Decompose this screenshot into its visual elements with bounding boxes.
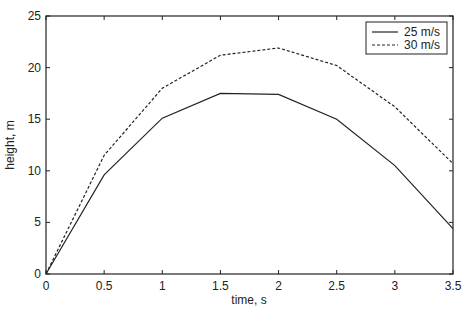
y-tick-label: 25 <box>28 9 42 23</box>
line-chart: 00.511.522.533.5 0510152025 time, s heig… <box>0 0 472 312</box>
y-tick-label: 15 <box>28 112 42 126</box>
x-axis-label: time, s <box>231 293 266 307</box>
y-tick-label: 20 <box>28 61 42 75</box>
y-tick-label: 5 <box>34 215 41 229</box>
x-tick-label: 2 <box>275 279 282 293</box>
x-tick-label: 1.5 <box>212 279 229 293</box>
legend-label-30: 30 m/s <box>404 38 440 52</box>
legend: 25 m/s 30 m/s <box>366 22 447 54</box>
x-tick-label: 0.5 <box>96 279 113 293</box>
y-tick-label: 0 <box>34 267 41 281</box>
y-axis-label: height, m <box>3 120 17 169</box>
legend-label-25: 25 m/s <box>404 25 440 39</box>
x-tick-label: 0 <box>43 279 50 293</box>
plot-area <box>46 16 453 274</box>
x-tick-label: 3 <box>392 279 399 293</box>
x-tick-label: 2.5 <box>328 279 345 293</box>
y-tick-label: 10 <box>28 164 42 178</box>
x-tick-label: 1 <box>159 279 166 293</box>
x-tick-label: 3.5 <box>445 279 462 293</box>
